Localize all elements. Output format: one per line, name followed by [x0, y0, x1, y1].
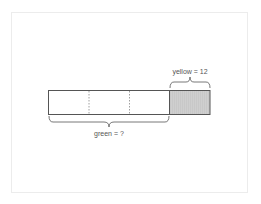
yellow-bar [170, 91, 211, 115]
green-brace-icon [49, 116, 169, 127]
green-bar [49, 91, 170, 115]
yellow-bar-shaded-box [170, 91, 211, 115]
green-label: green = ? [94, 130, 124, 138]
yellow-brace-icon [170, 77, 210, 88]
tape-diagram: yellow = 12 green = ? [0, 0, 261, 204]
yellow-label: yellow = 12 [172, 68, 207, 76]
green-bar-outline [49, 91, 170, 115]
